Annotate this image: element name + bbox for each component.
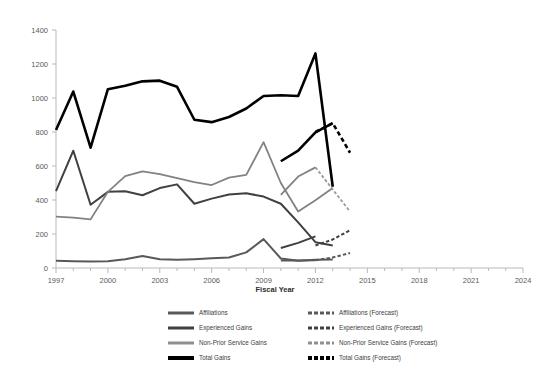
x-tick-label: 2000 <box>100 276 117 285</box>
y-tick-label: 400 <box>35 196 48 205</box>
legend-swatch-icon <box>168 353 194 363</box>
legend-item[interactable]: Affiliations <box>168 305 267 320</box>
legend-swatch-icon <box>308 323 334 333</box>
x-tick-labels: 1997200020032006200920122015201820212024 <box>48 276 532 285</box>
legend-swatch-icon <box>168 308 194 318</box>
series-line-experienced-gains-late <box>281 236 316 248</box>
legend-column-forecast: Affiliations (Forecast)Experienced Gains… <box>308 305 437 365</box>
series-line-total-gains-forecast <box>315 123 350 153</box>
plot-area: 0200400600800100012001400 19972000200320… <box>0 0 541 300</box>
x-tick-label: 2009 <box>255 276 272 285</box>
x-tick-label: 2006 <box>203 276 220 285</box>
legend-item[interactable]: Non-Prior Service Gains (Forecast) <box>308 335 437 350</box>
series-line-total-gains <box>56 53 333 186</box>
line-chart: 0200400600800100012001400 19972000200320… <box>0 0 541 382</box>
x-tick-label: 2015 <box>359 276 376 285</box>
legend-item-label: Total Gains (Forecast) <box>339 353 401 363</box>
x-tick-label: 2021 <box>463 276 480 285</box>
legend-item-label: Experienced Gains <box>199 323 252 333</box>
legend-swatch-icon <box>168 323 194 333</box>
series-line-non-prior-service-gains-forecast <box>315 167 350 211</box>
x-tick-label: 1997 <box>48 276 65 285</box>
legend-item-label: Total Gains <box>199 353 231 363</box>
y-tick-label: 1400 <box>31 26 48 35</box>
x-tick-label: 2003 <box>151 276 168 285</box>
x-tick-label: 2018 <box>411 276 428 285</box>
legend-item-label: Non-Prior Service Gains (Forecast) <box>339 338 437 348</box>
legend-item[interactable]: Non-Prior Service Gains <box>168 335 267 350</box>
y-tick-label: 1200 <box>31 60 48 69</box>
y-tick-label: 1000 <box>31 94 48 103</box>
y-tick-label: 600 <box>35 162 48 171</box>
series-line-affiliations <box>56 239 333 261</box>
legend-column-actual: AffiliationsExperienced GainsNon-Prior S… <box>168 305 267 365</box>
legend-item[interactable]: Experienced Gains <box>168 320 267 335</box>
series-line-experienced-gains-forecast <box>315 230 350 245</box>
legend-item-label: Non-Prior Service Gains <box>199 338 267 348</box>
legend-item[interactable]: Experienced Gains (Forecast) <box>308 320 437 335</box>
y-tick-label: 800 <box>35 128 48 137</box>
legend-swatch-icon <box>168 338 194 348</box>
chart-svg: 0200400600800100012001400 19972000200320… <box>0 0 541 300</box>
legend-swatch-icon <box>308 353 334 363</box>
y-tick-label: 0 <box>44 264 48 273</box>
legend-item[interactable]: Total Gains (Forecast) <box>308 350 437 365</box>
x-tick-label: 2024 <box>515 276 532 285</box>
legend-swatch-icon <box>308 338 334 348</box>
legend-item-label: Experienced Gains (Forecast) <box>339 323 423 333</box>
y-tick-label: 200 <box>35 230 48 239</box>
axes <box>52 30 523 273</box>
chart-legend: AffiliationsExperienced GainsNon-Prior S… <box>0 305 541 375</box>
y-tick-labels: 0200400600800100012001400 <box>31 26 48 273</box>
legend-swatch-icon <box>308 308 334 318</box>
legend-item[interactable]: Total Gains <box>168 350 267 365</box>
legend-item-label: Affiliations <box>199 308 228 318</box>
x-axis-title: Fiscal Year <box>255 285 294 294</box>
x-tick-label: 2012 <box>307 276 324 285</box>
legend-item[interactable]: Affiliations (Forecast) <box>308 305 437 320</box>
series-line-experienced-gains <box>56 151 333 246</box>
series-layer <box>56 53 350 261</box>
legend-item-label: Affiliations (Forecast) <box>339 308 398 318</box>
